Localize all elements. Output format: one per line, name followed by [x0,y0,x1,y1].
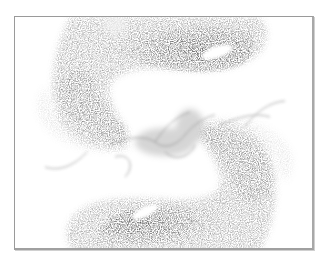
attractor-artwork [15,17,314,250]
artwork-frame [14,16,314,250]
